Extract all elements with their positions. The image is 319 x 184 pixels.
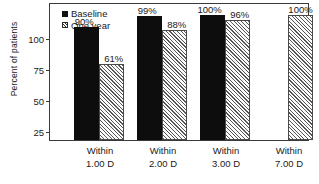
bar-group-within-7-00-d: 100% (261, 4, 319, 140)
bar-baseline-within-3-00-d: 100% (200, 15, 225, 141)
bar-one-year-within-2-00-d: 88% (162, 30, 187, 140)
bar-group-within-3-00-d: 100% 96% (198, 4, 256, 140)
bar-value-one-year-within-7-00-d: 100% (288, 5, 312, 15)
x-label-line2-within-1-00-d: 1.00 D (71, 158, 129, 171)
bar-value-baseline-within-1-00-d: 90% (75, 17, 94, 27)
x-label-within-2-00-d: Within 2.00 D (134, 145, 192, 170)
x-label-line1-within-1-00-d: Within (87, 145, 113, 156)
x-label-within-7-00-d: Within 7.00 D (260, 145, 318, 170)
x-label-within-3-00-d: Within 3.00 D (197, 145, 255, 170)
x-label-line1-within-2-00-d: Within (150, 145, 176, 156)
x-axis-category-labels: Within 1.00 D Within 2.00 D Within 3.00 … (49, 145, 309, 183)
bar-one-year-within-7-00-d: 100% (288, 15, 313, 141)
bar-value-baseline-within-3-00-d: 100% (197, 5, 221, 15)
y-tick-label-50: 50 (18, 97, 44, 107)
x-label-line1-within-7-00-d: Within (276, 145, 302, 156)
bar-group-within-2-00-d: 99% 88% (135, 4, 193, 140)
bar-baseline-within-2-00-d: 99% (137, 16, 162, 140)
x-label-line1-within-3-00-d: Within (213, 145, 239, 156)
bar-one-year-within-1-00-d: 61% (99, 64, 124, 141)
y-tick-label-100: 100 (18, 35, 44, 45)
x-label-line2-within-2-00-d: 2.00 D (134, 158, 192, 171)
bar-value-one-year-within-3-00-d: 96% (230, 10, 249, 20)
bar-one-year-within-3-00-d: 96% (225, 20, 250, 141)
bar-chart-figure: Percent of patients 100 75 50 25 Baselin… (0, 0, 319, 184)
bar-group-within-1-00-d: 90% 61% (72, 4, 130, 140)
bar-value-one-year-within-2-00-d: 88% (167, 20, 186, 30)
plot-area: Baseline One year 90% 61% 99% (49, 3, 309, 141)
y-tick-label-75: 75 (18, 66, 44, 76)
bar-groups: 90% 61% 99% 88% 100% (50, 4, 308, 140)
y-tick-label-25: 25 (18, 128, 44, 138)
bar-value-baseline-within-2-00-d: 99% (138, 6, 157, 16)
bar-baseline-within-1-00-d: 90% (74, 27, 99, 140)
bar-value-one-year-within-1-00-d: 61% (104, 54, 123, 64)
x-label-line2-within-3-00-d: 3.00 D (197, 158, 255, 171)
x-label-within-1-00-d: Within 1.00 D (71, 145, 129, 170)
y-axis-tick-labels: 100 75 50 25 (18, 0, 44, 184)
x-label-line2-within-7-00-d: 7.00 D (260, 158, 318, 171)
